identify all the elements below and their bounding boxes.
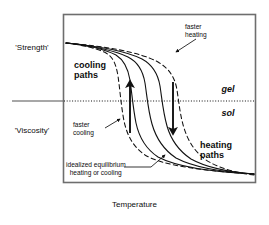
- idealized-equilibrium-annotation: idealized equilibrium heating or cooling: [66, 161, 126, 177]
- faster-cooling-annotation: faster cooling: [73, 121, 94, 137]
- heating-paths-label: heating paths: [200, 140, 232, 161]
- x-axis-label: Temperature: [0, 201, 269, 210]
- phase-label-sol: sol: [208, 108, 248, 118]
- y-axis-label-strength: 'Strength': [4, 44, 60, 53]
- faster-heating-annotation: faster heating: [185, 23, 207, 39]
- y-axis-label-viscosity: 'Viscosity': [4, 127, 60, 136]
- phase-label-gel: gel: [208, 84, 248, 94]
- sol-gel-hysteresis-figure: 'Strength' 'Viscosity' gel sol cooling p…: [0, 0, 269, 225]
- cooling-paths-label: cooling paths: [74, 60, 106, 81]
